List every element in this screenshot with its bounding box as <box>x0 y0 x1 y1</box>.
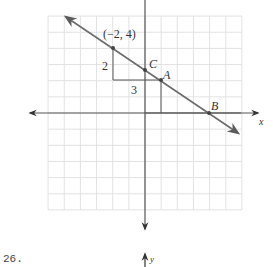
label-y-axis: y <box>149 254 154 264</box>
label-run: 3 <box>131 83 137 97</box>
point-minus2-4 <box>111 46 115 50</box>
coordinate-plot: (−2, 4) C A B 2 3 x 26. y <box>0 0 273 267</box>
label-point-a: A <box>162 68 171 82</box>
label-point-c: C <box>149 57 158 71</box>
graph-line <box>66 17 238 133</box>
label-point-b: B <box>211 99 219 113</box>
label-point-minus2-4: (−2, 4) <box>103 27 136 41</box>
point-c <box>143 68 147 72</box>
label-x-axis: x <box>258 116 264 127</box>
label-rise: 2 <box>102 59 108 73</box>
problem-number: 26. <box>3 253 23 265</box>
